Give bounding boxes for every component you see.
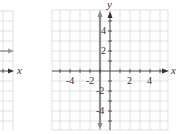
left-graph-x-axis [0, 69, 14, 74]
main-y-axis [108, 11, 113, 130]
y-tick-label: -4 [96, 105, 104, 116]
y-tick-label: 4 [101, 25, 106, 36]
main-x-axis-label: x [170, 64, 176, 76]
left-graph-gray-arrow [0, 49, 14, 54]
x-tick-label: -4 [66, 75, 74, 86]
graph-canvas: x [0, 0, 180, 134]
y-tick-label: -2 [96, 85, 104, 96]
x-tick-label: -2 [86, 75, 94, 86]
x-tick-label: 2 [127, 75, 132, 86]
y-tick-label: 2 [101, 45, 106, 56]
x-tick-label: 4 [147, 75, 152, 86]
left-x-axis-label: x [16, 64, 22, 76]
main-y-axis-label: y [106, 0, 112, 10]
main-x-axis [52, 69, 169, 74]
